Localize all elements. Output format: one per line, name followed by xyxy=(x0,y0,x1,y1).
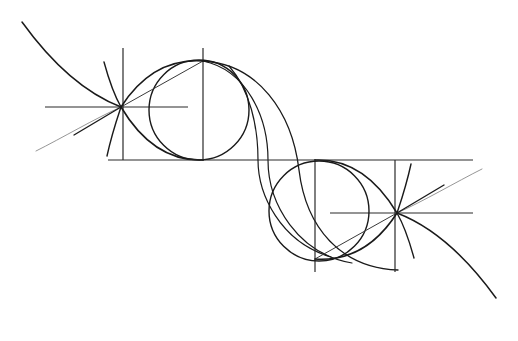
geometric-line-drawing xyxy=(0,0,518,341)
figure-canvas: Geometric Line Drawing Point-symmetric p… xyxy=(0,0,518,341)
